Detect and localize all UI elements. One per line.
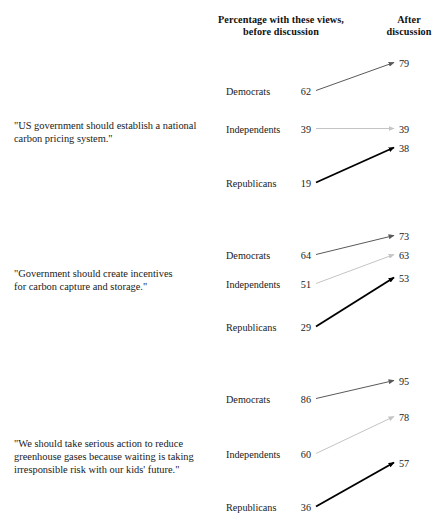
change-arrow-democrats <box>316 381 394 399</box>
before-value: 19 <box>291 178 311 190</box>
header-after-discussion: After discussion <box>381 14 437 37</box>
after-value: 95 <box>399 376 409 388</box>
header-after-line1: After <box>381 14 437 26</box>
after-value: 73 <box>399 231 409 243</box>
caption-line: for carbon capture and storage." <box>14 280 214 293</box>
change-arrow-democrats <box>316 236 394 255</box>
after-value: 63 <box>399 250 409 262</box>
panel-caption: "Government should create incentives for… <box>14 267 214 293</box>
change-arrow-republicans <box>316 463 394 507</box>
change-arrow-democrats <box>316 63 394 91</box>
header-before-line1: Percentage with these views, <box>213 14 349 26</box>
after-value: 53 <box>399 273 409 285</box>
after-value: 79 <box>399 58 409 70</box>
caption-line: "We should take serious action to reduce <box>14 437 214 450</box>
header-before-line2: before discussion <box>213 26 349 38</box>
after-value: 38 <box>399 143 409 155</box>
before-value: 86 <box>291 394 311 406</box>
panel-caption: "We should take serious action to reduce… <box>14 437 214 476</box>
group-label-independents: Independents <box>226 124 280 136</box>
change-arrow-independents <box>316 255 394 284</box>
group-label-independents: Independents <box>226 449 280 461</box>
change-arrow-republicans <box>316 278 394 327</box>
group-label-democrats: Democrats <box>226 394 270 406</box>
after-value: 57 <box>399 458 409 470</box>
after-value: 39 <box>399 124 409 136</box>
caption-line: "US government should establish a nation… <box>14 119 214 132</box>
chart-figure: Percentage with these views, before disc… <box>0 0 438 524</box>
caption-line: irresponsible risk with our kids' future… <box>14 463 214 476</box>
change-arrow-independents <box>316 417 394 454</box>
before-value: 39 <box>291 124 311 136</box>
caption-line: carbon pricing system." <box>14 132 214 145</box>
before-value: 60 <box>291 449 311 461</box>
before-value: 29 <box>291 322 311 334</box>
group-label-democrats: Democrats <box>226 86 270 98</box>
before-value: 62 <box>291 86 311 98</box>
group-label-democrats: Democrats <box>226 250 270 262</box>
before-value: 51 <box>291 279 311 291</box>
group-label-republicans: Republicans <box>226 178 276 190</box>
change-arrow-republicans <box>316 148 394 183</box>
group-label-republicans: Republicans <box>226 502 276 514</box>
before-value: 36 <box>291 502 311 514</box>
caption-line: "Government should create incentives <box>14 267 214 280</box>
group-label-republicans: Republicans <box>226 322 276 334</box>
header-after-line2: discussion <box>381 26 437 38</box>
group-label-independents: Independents <box>226 279 280 291</box>
header-before-discussion: Percentage with these views, before disc… <box>213 14 349 37</box>
after-value: 78 <box>399 412 409 424</box>
panel-caption: "US government should establish a nation… <box>14 119 214 145</box>
caption-line: greenhouse gases because waiting is taki… <box>14 450 214 463</box>
before-value: 64 <box>291 250 311 262</box>
